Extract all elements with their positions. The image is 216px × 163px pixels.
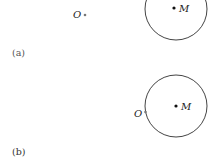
label-m-b: M: [180, 101, 192, 112]
center-point-m-b: [174, 104, 177, 107]
label-o-b: O: [134, 108, 142, 119]
point-o-b: [144, 111, 147, 114]
caption-a: (a): [12, 47, 25, 58]
point-o-a: [84, 14, 87, 17]
circle-m-a: [145, 0, 207, 40]
panel-b: M O (b): [12, 75, 207, 157]
center-point-m-a: [172, 6, 175, 9]
label-o-a: O: [73, 9, 81, 20]
panel-a: M O (a): [12, 0, 207, 58]
caption-b: (b): [12, 146, 26, 157]
diagram-canvas: M O (a) M O (b): [0, 0, 216, 163]
label-m-a: M: [178, 3, 190, 14]
